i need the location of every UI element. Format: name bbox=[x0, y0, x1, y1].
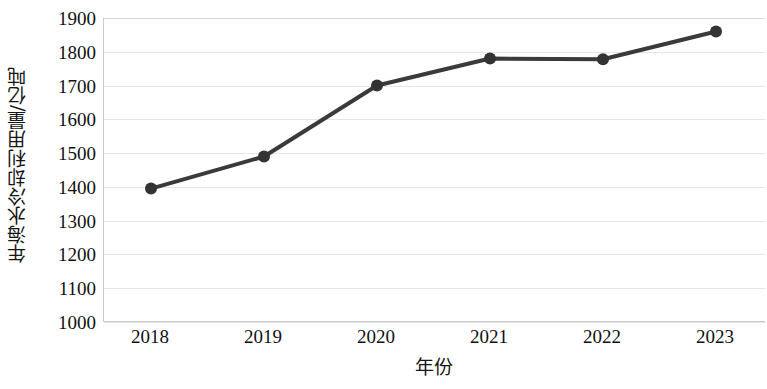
series-line bbox=[151, 32, 716, 189]
x-tick-label: 2021 bbox=[470, 326, 508, 349]
x-tick-label: 2023 bbox=[696, 326, 734, 349]
x-tick-label: 2018 bbox=[131, 326, 169, 349]
data-point bbox=[710, 26, 722, 38]
y-tick-label: 1300 bbox=[34, 211, 96, 230]
data-point bbox=[597, 53, 609, 65]
data-point bbox=[484, 53, 496, 65]
y-axis-title-text: 年海水冷却利用量/亿吨 bbox=[8, 67, 27, 263]
data-point bbox=[145, 183, 157, 195]
y-tick-label: 1400 bbox=[34, 177, 96, 196]
y-tick-label: 1800 bbox=[34, 42, 96, 61]
x-tick-label: 2022 bbox=[583, 326, 621, 349]
data-point bbox=[371, 80, 383, 92]
line-chart: 年海水冷却利用量/亿吨 1900180017001600150014001300… bbox=[0, 0, 767, 389]
y-tick-label: 1900 bbox=[34, 9, 96, 28]
plot-area bbox=[103, 18, 765, 322]
x-axis-title: 年份 bbox=[103, 358, 765, 377]
gridline bbox=[104, 322, 765, 323]
y-tick-label: 1100 bbox=[34, 279, 96, 298]
data-point bbox=[258, 150, 270, 162]
y-tick-label: 1600 bbox=[34, 110, 96, 129]
y-axis-tick-labels: 1900180017001600150014001300120011001000 bbox=[34, 0, 100, 340]
y-tick-label: 1200 bbox=[34, 245, 96, 264]
y-tick-label: 1700 bbox=[34, 76, 96, 95]
x-tick-label: 2019 bbox=[244, 326, 282, 349]
y-tick-label: 1500 bbox=[34, 144, 96, 163]
x-tick-label: 2020 bbox=[357, 326, 395, 349]
data-series-layer bbox=[104, 18, 766, 322]
y-axis-title: 年海水冷却利用量/亿吨 bbox=[0, 0, 34, 330]
x-axis-tick-labels: 201820192020202120222023 bbox=[0, 326, 767, 354]
